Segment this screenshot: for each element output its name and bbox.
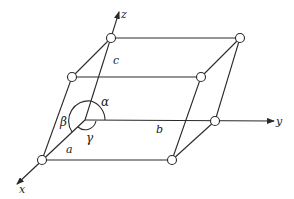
angle-gamma-label: γ <box>86 131 94 145</box>
angle-beta-label: β <box>59 115 67 129</box>
vertex-top-back-left <box>107 34 116 43</box>
vertex-bottom-front-left <box>38 156 47 165</box>
vertex-top-back-right <box>236 34 245 43</box>
angle-beta-arc <box>69 101 91 132</box>
x-axis-label: x <box>19 183 26 196</box>
z-axis-label: z <box>120 8 127 21</box>
y-axis-label: y <box>275 115 283 128</box>
x-axis <box>17 120 85 184</box>
angle-gamma-arc <box>78 121 96 130</box>
unit-cell-diagram: z y x c b a α β γ <box>0 0 294 199</box>
vertex-top-front-left <box>68 73 77 82</box>
edge-a-label: a <box>66 143 73 156</box>
vertex-bottom-front-right <box>168 156 177 165</box>
angle-alpha-label: α <box>101 95 109 109</box>
vertex-bottom-back-right <box>211 117 220 126</box>
vertex-top-front-right <box>197 73 206 82</box>
edge-b-label: b <box>156 123 163 136</box>
y-axis <box>85 120 274 121</box>
edge-c-label: c <box>113 54 119 67</box>
